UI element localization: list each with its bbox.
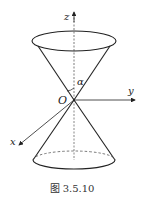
z-axis-label: z: [63, 11, 70, 22]
top-cone-left-edge: [38, 46, 74, 100]
figure-caption: 图 3.5.10: [50, 183, 95, 194]
bottom-ellipse-back: [33, 151, 115, 160]
angle-label: α: [77, 76, 84, 87]
origin-label: O: [58, 94, 67, 107]
angle-arc: [67, 88, 74, 91]
top-cone-right-edge: [74, 46, 110, 100]
top-ellipse: [32, 31, 116, 51]
y-axis-label: y: [127, 85, 134, 96]
x-axis-label: x: [10, 136, 16, 147]
cone-diagram: z y x O α 图 3.5.10: [0, 0, 145, 202]
bottom-ellipse-front: [33, 160, 115, 169]
